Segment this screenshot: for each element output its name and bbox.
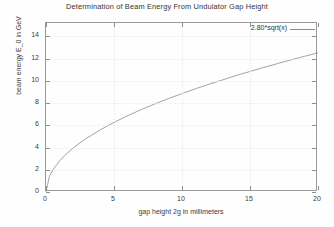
y-axis-tick-label: 6 [11, 120, 39, 127]
gridline-vertical [182, 23, 183, 190]
y-axis-tick-label: 14 [11, 31, 39, 38]
legend: 2.80*sqrt(x) [205, 24, 315, 36]
chart-title: Determination of Beam Energy From Undula… [0, 2, 334, 11]
legend-line-sample [290, 29, 315, 30]
y-axis-tick [46, 81, 50, 82]
x-axis-tick-label: 15 [234, 195, 264, 202]
y-axis-tick-label: 10 [11, 76, 39, 83]
y-axis-tick [46, 103, 50, 104]
gridline-vertical [250, 23, 251, 190]
y-axis-tick [312, 148, 316, 149]
y-axis-tick [46, 125, 50, 126]
y-axis-tick [312, 59, 316, 60]
x-axis-tick [46, 186, 47, 190]
gridline-horizontal [46, 170, 316, 171]
x-axis-tick [46, 23, 47, 27]
y-axis-tick [46, 170, 50, 171]
gridline-horizontal [46, 148, 316, 149]
y-axis-tick [312, 192, 316, 193]
gridline-horizontal [46, 36, 316, 37]
y-axis-tick-label: 0 [11, 187, 39, 194]
y-axis-tick-label: 12 [11, 54, 39, 61]
x-axis-tick [114, 186, 115, 190]
x-axis-title: gap height 2g in millimeters [45, 208, 317, 215]
y-axis-tick-label: 4 [11, 143, 39, 150]
chart-container: Determination of Beam Energy From Undula… [0, 0, 334, 227]
gridline-horizontal [46, 81, 316, 82]
plot-area [45, 22, 317, 191]
y-axis-tick [312, 103, 316, 104]
gridline-horizontal [46, 103, 316, 104]
y-axis-tick [312, 125, 316, 126]
x-axis-tick-label: 5 [98, 195, 128, 202]
x-axis-tick [318, 186, 319, 190]
y-axis-tick [46, 148, 50, 149]
gridline-vertical [114, 23, 115, 190]
y-axis-tick-label: 2 [11, 165, 39, 172]
legend-entry-label: 2.80*sqrt(x) [251, 24, 287, 31]
gridline-horizontal [46, 125, 316, 126]
y-axis-tick [46, 59, 50, 60]
y-axis-tick [312, 36, 316, 37]
x-axis-tick-label: 0 [30, 195, 60, 202]
y-axis-tick [46, 36, 50, 37]
y-axis-tick [312, 170, 316, 171]
y-axis-tick [46, 192, 50, 193]
gridline-horizontal [46, 59, 316, 60]
x-axis-tick [250, 186, 251, 190]
x-axis-tick [318, 23, 319, 27]
y-axis-tick [312, 81, 316, 82]
x-axis-tick [114, 23, 115, 27]
x-axis-tick-label: 10 [166, 195, 196, 202]
x-axis-tick [182, 23, 183, 27]
x-axis-tick [182, 186, 183, 190]
y-axis-tick-label: 8 [11, 98, 39, 105]
x-axis-tick-label: 20 [302, 195, 332, 202]
